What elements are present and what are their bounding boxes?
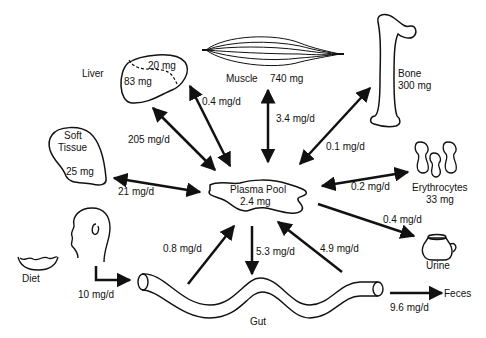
flux-liver-inner: 0.4 mg/d bbox=[202, 96, 241, 107]
erythrocytes-label: Erythrocytes bbox=[412, 182, 468, 193]
muscle-shape bbox=[202, 37, 344, 66]
soft-tissue-label-2: Tissue bbox=[58, 142, 87, 153]
flux-diet: 10 mg/d bbox=[78, 289, 114, 300]
flux-urine: 0.4 mg/d bbox=[383, 214, 422, 225]
flux-erythrocytes: 0.2 mg/d bbox=[351, 181, 390, 192]
arrow-diet bbox=[96, 266, 130, 280]
liver-value-b: 83 mg bbox=[124, 76, 152, 87]
gut-shape bbox=[138, 274, 383, 318]
soft-tissue-value: 25 mg bbox=[66, 166, 94, 177]
bone-label: Bone bbox=[398, 68, 421, 79]
arrow-bone bbox=[300, 88, 370, 164]
urine-label: Urine bbox=[426, 260, 450, 271]
plasma-pool-label: Plasma Pool bbox=[230, 184, 286, 195]
urine-jar-shape bbox=[422, 235, 455, 261]
head-shape bbox=[71, 208, 110, 262]
liver-value-a: 20 mg bbox=[148, 60, 176, 71]
diet-label: Diet bbox=[22, 273, 40, 284]
flux-gut-to-plasma-2: 4.9 mg/d bbox=[320, 243, 359, 254]
flux-gut-to-plasma: 0.8 mg/d bbox=[163, 243, 202, 254]
erythrocytes-value: 33 mg bbox=[426, 194, 454, 205]
soft-tissue-label-1: Soft bbox=[64, 130, 82, 141]
plasma-pool-value: 2.4 mg bbox=[240, 196, 271, 207]
flux-feces: 9.6 mg/d bbox=[390, 302, 429, 313]
bone-value: 300 mg bbox=[398, 80, 431, 91]
flux-plasma-to-gut: 5.3 mg/d bbox=[256, 246, 295, 257]
feces-label: Feces bbox=[444, 288, 471, 299]
arrow-gut-to-plasma bbox=[188, 226, 234, 284]
flux-bone: 0.1 mg/d bbox=[326, 141, 365, 152]
flux-liver-outer: 205 mg/d bbox=[128, 134, 170, 145]
gut-label: Gut bbox=[250, 316, 266, 327]
flux-soft-tissue: 21 mg/d bbox=[118, 186, 154, 197]
erythrocytes-shape bbox=[415, 142, 456, 177]
flux-muscle: 3.4 mg/d bbox=[276, 113, 315, 124]
liver-label: Liver bbox=[82, 68, 104, 79]
diet-bowl-shape bbox=[18, 257, 58, 270]
muscle-value: 740 mg bbox=[270, 73, 303, 84]
muscle-label: Muscle bbox=[226, 73, 258, 84]
